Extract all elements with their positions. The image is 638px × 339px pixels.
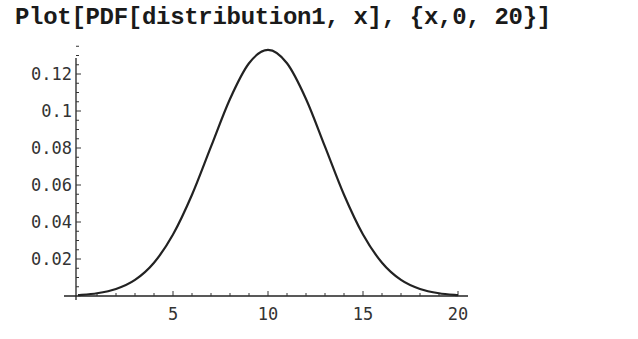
tick-labels: 51015200.020.040.060.080.10.12 bbox=[31, 64, 468, 324]
pdf-plot: 51015200.020.040.060.080.10.12 bbox=[0, 0, 638, 339]
x-tick-label: 15 bbox=[353, 304, 373, 324]
y-tick-label: 0.04 bbox=[31, 212, 72, 232]
y-tick-label: 0.06 bbox=[31, 175, 72, 195]
y-tick-label: 0.08 bbox=[31, 138, 72, 158]
y-tick-label: 0.02 bbox=[31, 249, 72, 269]
axes bbox=[64, 58, 468, 300]
x-tick-label: 10 bbox=[258, 304, 278, 324]
x-tick-label: 5 bbox=[168, 304, 178, 324]
y-tick-label: 0.12 bbox=[31, 64, 72, 84]
axis-ticks bbox=[76, 46, 458, 296]
pdf-curve bbox=[78, 50, 458, 295]
x-tick-label: 20 bbox=[448, 304, 468, 324]
y-tick-label: 0.1 bbox=[41, 101, 72, 121]
